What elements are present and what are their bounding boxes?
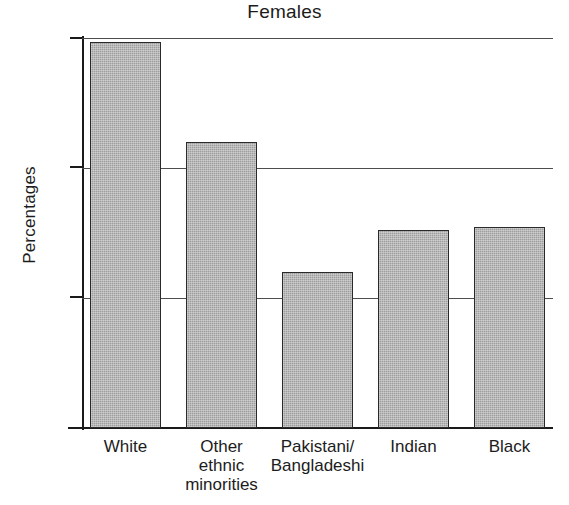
bar-pakistani — [282, 272, 353, 428]
x-tick-label-2: Other ethnic minorities — [174, 437, 269, 494]
bar-white — [90, 42, 161, 428]
chart-title: Females — [0, 1, 569, 23]
y-axis-label: Percentages — [20, 115, 40, 315]
clipped-caption-text — [150, 498, 550, 505]
x-tick-label-4: Indian — [366, 437, 461, 456]
x-tick-label-1: White — [78, 437, 173, 456]
x-tick-label-3: Pakistani/ Bangladeshi — [270, 437, 365, 475]
plot-area — [82, 38, 553, 428]
bar-indian — [378, 230, 449, 428]
x-tick-label-5: Black — [462, 437, 557, 456]
gridline-60 — [82, 38, 553, 39]
bar-chart-figure: Females Percentages 60 40 20 0 WhiteOthe… — [0, 0, 569, 505]
bar-other — [186, 142, 257, 428]
bar-black — [474, 227, 545, 429]
